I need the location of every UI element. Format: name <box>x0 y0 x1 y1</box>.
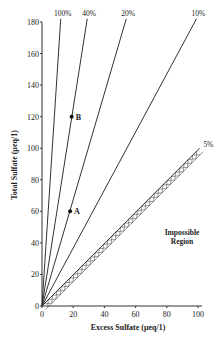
y-tick-label: 140 <box>27 81 39 90</box>
line-label: 10% <box>192 9 206 18</box>
y-tick-label: 40 <box>31 239 39 248</box>
x-tick-label: 80 <box>163 310 171 319</box>
y-tick-label: 160 <box>27 50 39 59</box>
sulfate-chart: 020406080100120140160180020406080100Exce… <box>0 0 224 342</box>
line-label: 40% <box>82 9 96 18</box>
y-tick-label: 20 <box>31 270 39 279</box>
y-tick-label: 100 <box>27 144 39 153</box>
y-tick-label: 0 <box>35 302 39 311</box>
x-axis-title: Excess Sulfate (μeq/1) <box>91 323 166 332</box>
y-tick-label: 80 <box>31 176 39 185</box>
line-label: 20% <box>121 9 135 18</box>
ratio-line <box>42 19 196 306</box>
x-tick-label: 20 <box>69 310 77 319</box>
region-label: Impossible <box>165 228 200 237</box>
ratio-line <box>42 19 126 306</box>
y-tick-label: 120 <box>27 113 39 122</box>
x-tick-label: 100 <box>192 310 204 319</box>
data-point <box>68 209 72 213</box>
y-tick-label: 60 <box>31 207 39 216</box>
y-axis-title: Total Sulfate (μeq/1) <box>10 130 19 200</box>
point-label: A <box>74 207 80 216</box>
x-tick-label: 40 <box>100 310 108 319</box>
x-tick-label: 0 <box>40 310 44 319</box>
x-tick-label: 60 <box>132 310 140 319</box>
region-label: Region <box>171 237 194 246</box>
y-tick-label: 180 <box>27 18 39 27</box>
ratio-line <box>42 19 61 306</box>
line-label: 100% <box>54 9 72 18</box>
data-point <box>70 115 74 119</box>
point-label: B <box>76 113 82 122</box>
line-label: 5% <box>204 140 214 149</box>
